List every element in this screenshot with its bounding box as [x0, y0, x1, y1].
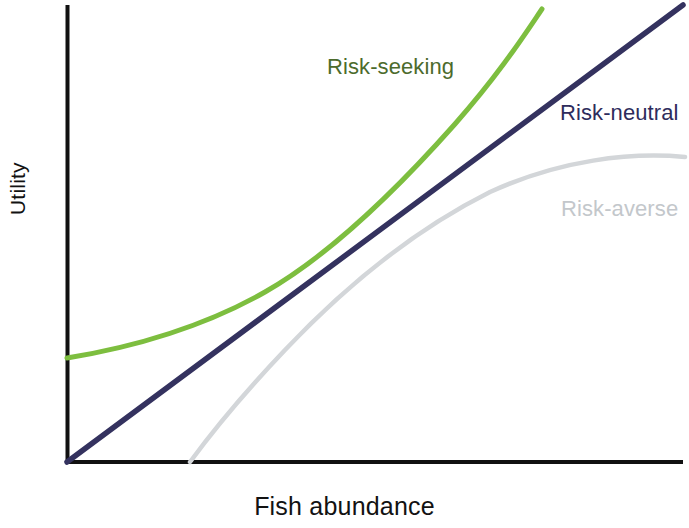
- plot-area: [0, 0, 689, 528]
- x-axis-label: Fish abundance: [0, 494, 689, 519]
- utility-curves-figure: Risk-seeking Risk-neutral Risk-averse Fi…: [0, 0, 689, 528]
- risk-averse-label: Risk-averse: [561, 198, 678, 220]
- risk-neutral-label: Risk-neutral: [560, 102, 679, 124]
- y-axis-label: Utility: [0, 95, 36, 215]
- risk-seeking-curve: [67, 9, 542, 358]
- risk-seeking-label: Risk-seeking: [327, 56, 454, 78]
